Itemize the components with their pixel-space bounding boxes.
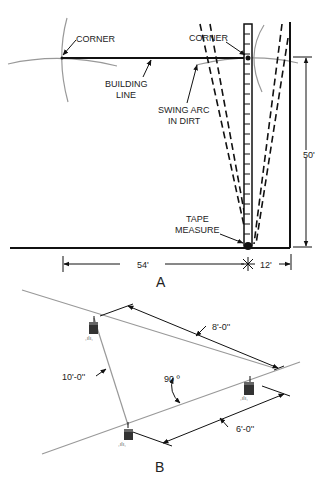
label-corner-left: CORNER (76, 34, 116, 44)
swing-line-3 (254, 24, 282, 244)
dim-diagonal: 10'-0'' (62, 372, 85, 382)
figure-a-label: A (156, 274, 166, 290)
layout-diagram: CORNER CORNER BUILDING LINE SWING ARC IN… (0, 0, 323, 482)
dim-top: 8'-0'' (212, 322, 230, 332)
swing-line-4 (256, 38, 288, 244)
dim-bottom: 6'-0'' (236, 424, 254, 434)
dim-left-width: 54' (137, 260, 149, 270)
label-swing-arc-2: IN DIRT (168, 116, 201, 126)
dim-angle: 90 º (164, 374, 181, 384)
label-swing-arc-1: SWING ARC (158, 105, 210, 115)
dim-height: 50' (303, 150, 315, 160)
label-tape-2: MEASURE (175, 225, 220, 235)
left-corner-arc-vertical (62, 18, 68, 102)
label-corner-right: CORNER (189, 33, 229, 43)
figure-b: 8'-0'' 6'-0'' 10'-0'' 90 º ,ılı, ,ılı, (22, 290, 300, 475)
figure-b-label: B (155, 459, 164, 475)
string-line-top (22, 290, 274, 368)
svg-text:,ılı,: ,ılı, (240, 395, 248, 401)
left-corner-point (61, 57, 64, 60)
figure-a: CORNER CORNER BUILDING LINE SWING ARC IN… (8, 18, 315, 290)
string-line-diagonal (94, 318, 128, 425)
right-corner-point (246, 56, 251, 61)
dim-right-width: 12' (260, 260, 272, 270)
label-building-line-1: BUILDING (105, 79, 148, 89)
svg-text:,ılı,: ,ılı, (118, 441, 126, 447)
stake-top-left-icon: ,ılı, (85, 316, 98, 341)
svg-text:,ılı,: ,ılı, (85, 335, 93, 341)
origin-star-icon (241, 257, 255, 271)
label-tape-1: TAPE (186, 214, 209, 224)
label-building-line-2: LINE (116, 90, 136, 100)
